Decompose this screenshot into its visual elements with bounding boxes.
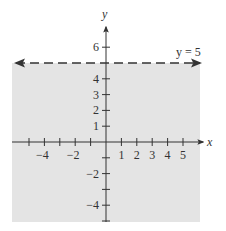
x-tick-label: 1: [118, 148, 124, 162]
x-tick-label: 5: [180, 148, 186, 162]
boundary-line-label: y = 5: [176, 45, 201, 59]
x-tick-label: −4: [36, 148, 49, 162]
x-tick-label: 4: [165, 148, 171, 162]
y-axis-label: y: [101, 7, 108, 21]
y-tick-label: −2: [86, 167, 99, 181]
y-tick-label: −4: [86, 198, 99, 212]
y-tick-label: 4: [93, 72, 99, 86]
y-tick-label: 2: [93, 103, 99, 117]
y-tick-label: 3: [93, 88, 99, 102]
x-tick-label: 2: [134, 148, 140, 162]
x-tick-label: −2: [67, 148, 80, 162]
x-axis-label: x: [206, 135, 213, 149]
inequality-graph: −4−212345 64321−2−4 x y y = 5: [0, 0, 226, 231]
y-tick-label: 6: [93, 40, 99, 54]
x-tick-label: 3: [149, 148, 155, 162]
y-tick-label: 1: [93, 119, 99, 133]
